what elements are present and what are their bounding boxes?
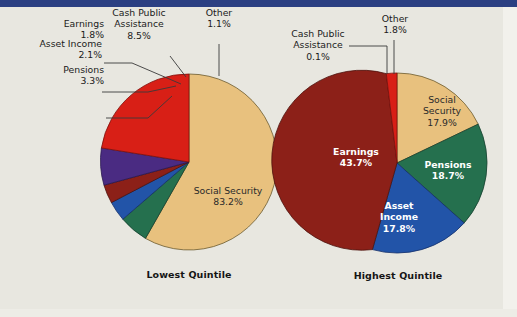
right-label-cpa-pct: 0.1% (306, 51, 330, 62)
left-inlabel-social-security: Social Security 83.2% (168, 185, 288, 208)
right-inlabel-pensions: Pensions 18.7% (412, 159, 484, 182)
right-inlabel-ss-name2: Security (423, 105, 461, 116)
right-inlabel-earnings-pct: 43.7% (340, 157, 372, 168)
left-label-other-name: Other (206, 7, 232, 18)
right-label-other: Other 1.8% (369, 13, 421, 36)
left-label-pensions-pct: 3.3% (80, 75, 104, 86)
left-label-earnings-pct: 1.8% (80, 29, 104, 40)
right-inlabel-ai-name2: Income (380, 211, 418, 222)
right-chart-caption: Highest Quintile (348, 270, 448, 281)
right-label-cash-public-assistance: Cash Public Assistance 0.1% (287, 28, 349, 62)
right-inlabel-pensions-name: Pensions (425, 159, 472, 170)
right-inlabel-ai-name1: Asset (384, 200, 413, 211)
left-leader-cash-public-assistance (170, 56, 186, 77)
right-inlabel-asset-income: Asset Income 17.8% (366, 200, 432, 234)
left-label-asset-income: Asset Income 2.1% (2, 38, 102, 61)
left-label-pensions-name: Pensions (63, 64, 104, 75)
right-label-cpa-name2: Assistance (293, 39, 343, 50)
left-label-cpa-name1: Cash Public (112, 7, 165, 18)
left-label-pensions: Pensions 3.3% (8, 64, 104, 87)
right-inlabel-earnings: Earnings 43.7% (320, 146, 392, 169)
right-leader-cash-public-assistance (349, 46, 387, 74)
left-label-earnings-name: Earnings (64, 18, 104, 29)
left-chart-caption: Lowest Quintile (139, 269, 239, 280)
left-label-asset-income-pct: 2.1% (78, 49, 102, 60)
left-inlabel-ss-name: Social Security (194, 185, 263, 196)
right-label-cpa-name1: Cash Public (291, 28, 344, 39)
right-inlabel-pensions-pct: 18.7% (432, 170, 464, 181)
right-inlabel-earnings-name: Earnings (333, 146, 379, 157)
left-label-cash-public-assistance: Cash Public Assistance 8.5% (108, 7, 170, 41)
right-label-other-pct: 1.8% (383, 24, 407, 35)
left-label-cpa-name2: Assistance (114, 18, 164, 29)
left-label-other-pct: 1.1% (207, 18, 231, 29)
right-label-other-name: Other (382, 13, 408, 24)
right-inlabel-ss-name1: Social (428, 94, 456, 105)
left-inlabel-ss-pct: 83.2% (213, 196, 243, 207)
left-label-cpa-pct: 8.5% (127, 30, 151, 41)
right-inlabel-social-security: Social Security 17.9% (408, 94, 476, 128)
right-inlabel-ai-pct: 17.8% (383, 223, 415, 234)
right-inlabel-ss-pct: 17.9% (427, 117, 457, 128)
pie-chart-figure: Pensions 3.3% Asset Income 2.1% Earnings… (0, 0, 517, 317)
left-label-earnings: Earnings 1.8% (44, 18, 104, 41)
left-label-other: Other 1.1% (193, 7, 245, 30)
